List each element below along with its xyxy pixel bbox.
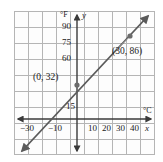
chart-overlay [0, 0, 163, 162]
x-axis-unit-label: °C [143, 107, 152, 115]
x-tick-label-30: 30 [116, 124, 125, 133]
x-tick-label-20: 20 [102, 124, 111, 133]
x-tick-label-neg30: −30 [20, 124, 34, 133]
data-point-marker-0-32 [74, 82, 79, 87]
y-tick-label-60: 60 [62, 54, 71, 63]
y-tick-label-15: 15 [66, 102, 75, 111]
x-tick-label-10: 10 [88, 124, 97, 133]
x-tick-label-40: 40 [130, 124, 139, 133]
y-axis-variable-label: y [82, 11, 86, 20]
chart-figure: °F y 90 75 60 15 −30 −10 10 20 30 40 °C … [0, 0, 163, 162]
data-point-marker-30-86 [127, 33, 132, 38]
y-tick-label-75: 75 [62, 38, 71, 47]
y-axis-unit-label: °F [60, 11, 68, 19]
y-tick-label-90: 90 [62, 22, 71, 31]
annotation-label-0-32: (0, 32) [33, 73, 58, 83]
x-tick-label-neg10: −10 [48, 124, 62, 133]
annotation-label-30-86: (30, 86) [112, 47, 142, 57]
x-axis-variable-label: x [145, 124, 149, 133]
